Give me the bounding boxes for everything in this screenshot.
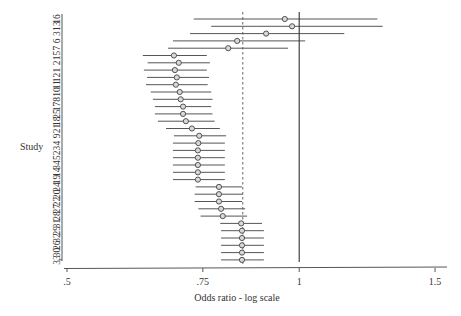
study-label: 21 — [52, 124, 62, 134]
point-estimate-study-8 — [178, 97, 183, 102]
point-estimate-study-6 — [235, 38, 240, 43]
point-estimate-study-34 — [195, 162, 200, 167]
point-estimate-study-14 — [195, 170, 200, 175]
study-label: 13 — [52, 21, 62, 31]
point-estimate-study-20 — [216, 192, 221, 197]
x-axis-title: Odds ratio - log scale — [194, 292, 280, 303]
point-estimate-study-13 — [289, 24, 294, 29]
point-estimate-study-18 — [183, 119, 188, 124]
x-axis-ticks: .5.7511.5 — [63, 268, 441, 287]
point-estimate-study-32 — [239, 235, 244, 240]
x-tick-label: .75 — [197, 276, 210, 287]
ci-lines — [143, 19, 383, 260]
point-estimate-study-7 — [226, 46, 231, 51]
y-axis-study-labels: 1613367152112111081725182194235341419242… — [52, 14, 62, 265]
point-estimate-study-9 — [197, 133, 202, 138]
point-estimate-study-24 — [216, 184, 221, 189]
point-estimate-study-3 — [264, 31, 269, 36]
study-label: 1 — [52, 67, 62, 72]
study-label: 15 — [52, 51, 62, 61]
point-estimate-study-28 — [220, 214, 225, 219]
point-estimate-study-17 — [180, 104, 185, 109]
study-label: 23 — [52, 145, 62, 155]
point-estimate-study-29 — [239, 228, 244, 233]
x-tick-label: .5 — [63, 276, 71, 287]
point-estimate-study-23 — [195, 148, 200, 153]
point-estimates — [171, 16, 294, 262]
x-axis — [64, 267, 447, 269]
forest-plot: 1613367152112111081725182194235341419242… — [0, 0, 461, 316]
point-estimate-study-1 — [172, 68, 177, 73]
point-estimate-study-15 — [171, 53, 176, 58]
study-label: 8 — [52, 97, 62, 102]
point-estimate-study-33 — [239, 257, 244, 262]
x-tick-label: 1 — [297, 276, 302, 287]
point-estimate-study-27 — [218, 206, 223, 211]
x-tick-label: 1.5 — [429, 276, 442, 287]
point-estimate-study-4 — [196, 141, 201, 146]
point-estimate-study-10 — [177, 89, 182, 94]
point-estimate-study-16 — [282, 16, 287, 21]
point-estimate-study-19 — [195, 177, 200, 182]
point-estimate-study-21 — [189, 126, 194, 131]
study-label: 5 — [52, 155, 62, 160]
study-label: 10 — [52, 87, 62, 97]
study-label: 3 — [52, 31, 62, 36]
y-axis-title: Study — [20, 141, 43, 152]
point-estimate-study-25 — [180, 111, 185, 116]
point-estimate-study-5 — [195, 155, 200, 160]
study-label: 9 — [52, 133, 62, 138]
point-estimate-study-11 — [173, 82, 178, 87]
study-label: 6 — [52, 38, 62, 43]
point-estimate-study-12 — [174, 75, 179, 80]
point-estimate-study-22 — [216, 199, 221, 204]
study-label: 2 — [52, 60, 62, 65]
point-estimate-study-2 — [176, 60, 181, 65]
point-estimate-study-30 — [239, 250, 244, 255]
point-estimate-study-26 — [239, 243, 244, 248]
forest-plot-canvas: 1613367152112111081725182194235341419242… — [0, 0, 461, 316]
study-label: 4 — [52, 140, 62, 145]
point-estimate-study-31 — [239, 221, 244, 226]
study-label: 7 — [52, 46, 62, 51]
